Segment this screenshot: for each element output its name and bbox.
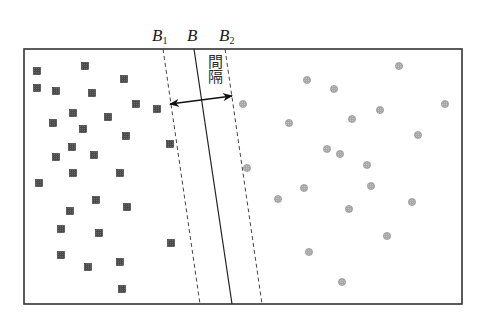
square-point [168, 240, 175, 247]
label-b-main: B [187, 26, 197, 45]
square-point [67, 208, 74, 215]
class-circle-points [239, 62, 448, 285]
square-point [70, 110, 77, 117]
square-point [117, 170, 124, 177]
circle-point [441, 100, 448, 107]
square-point [89, 90, 96, 97]
square-point [82, 63, 89, 70]
circle-point [303, 76, 310, 83]
square-point [105, 114, 112, 121]
square-point [119, 286, 126, 293]
square-point [91, 152, 98, 159]
circle-point [330, 85, 337, 92]
square-point [70, 170, 77, 177]
circle-point [338, 278, 345, 285]
svm-diagram-canvas [0, 0, 482, 328]
square-point [154, 106, 161, 113]
circle-point [348, 115, 355, 122]
label-b2-main: B [219, 26, 229, 45]
square-point [58, 252, 65, 259]
margin-boundary-b1-dashed [163, 49, 200, 304]
square-point [117, 259, 124, 266]
label-b: B [187, 27, 197, 44]
circle-point [414, 131, 421, 138]
margin-boundary-b2-dashed [225, 49, 262, 304]
margin-label: 間隔 [205, 54, 222, 84]
square-point [34, 68, 41, 75]
square-point [85, 264, 92, 271]
circle-point [367, 182, 374, 189]
square-point [93, 197, 100, 204]
circle-point [239, 100, 246, 107]
square-point [96, 230, 103, 237]
label-b2: B2 [219, 27, 234, 46]
square-point [123, 133, 130, 140]
circle-point [345, 205, 352, 212]
circle-point [395, 62, 402, 69]
square-point [58, 226, 65, 233]
circle-point [376, 106, 383, 113]
label-b2-subscript: 2 [229, 35, 234, 46]
square-point [133, 101, 140, 108]
class-square-points [34, 63, 175, 293]
label-b1-main: B [152, 26, 162, 45]
decision-boundary-b-solid [194, 49, 232, 304]
square-point [34, 85, 41, 92]
circle-point [383, 232, 390, 239]
square-point [36, 180, 43, 187]
square-point [53, 154, 60, 161]
circle-point [408, 198, 415, 205]
square-point [53, 88, 60, 95]
square-point [167, 141, 174, 148]
circle-point [336, 150, 343, 157]
circle-point [243, 164, 250, 171]
circle-point [285, 119, 292, 126]
square-point [124, 204, 131, 211]
square-point [50, 120, 57, 127]
circle-point [274, 195, 281, 202]
square-point [121, 76, 128, 83]
label-b1: B1 [152, 27, 167, 46]
square-point [69, 144, 76, 151]
circle-point [305, 248, 312, 255]
circle-point [300, 184, 307, 191]
label-b1-subscript: 1 [162, 35, 167, 46]
circle-point [363, 161, 370, 168]
circle-point [323, 145, 330, 152]
square-point [80, 126, 87, 133]
